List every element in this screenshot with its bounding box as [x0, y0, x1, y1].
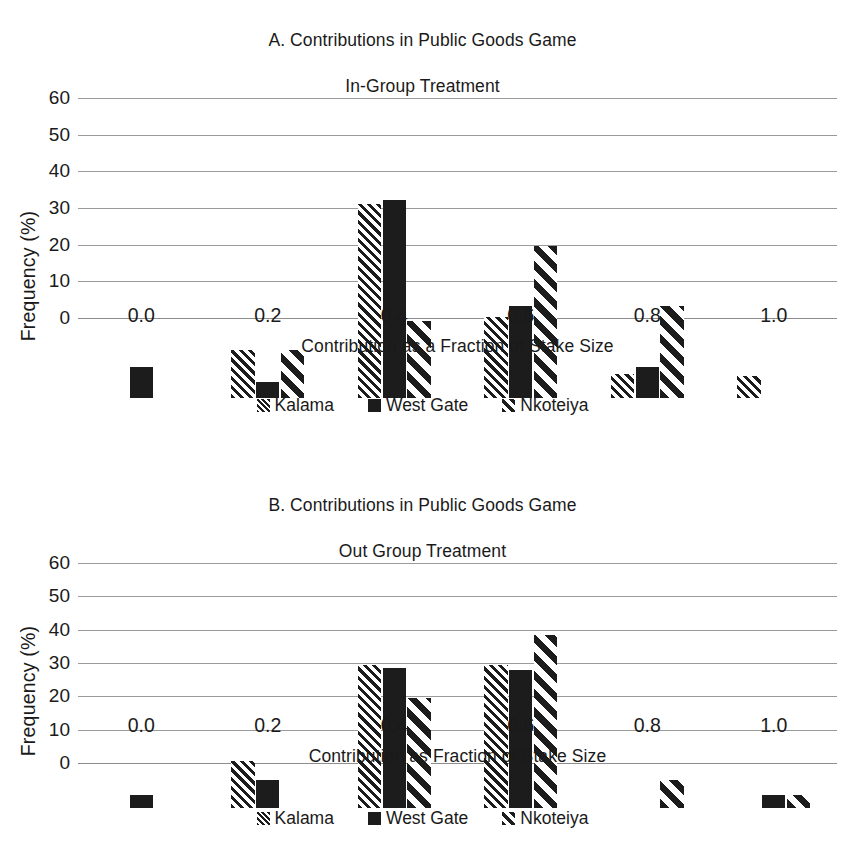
bar-kalama-0.2 — [231, 350, 254, 398]
x-tick-label: 0.6 — [507, 714, 534, 737]
chart-a-y-axis-ticks: 6050403020100 — [22, 98, 70, 398]
y-tick-label: 50 — [22, 585, 70, 607]
chart-b-y-axis-ticks: 6050403020100 — [22, 563, 70, 808]
solid-square-swatch-icon — [368, 399, 381, 412]
bar-nkoteiya-0.2 — [281, 350, 304, 398]
chart-a-x-axis-label: Contribution as a Fraction of Stake Size — [78, 336, 837, 357]
hatch-fine-swatch-icon — [257, 812, 270, 825]
y-tick-label: 20 — [22, 234, 70, 256]
y-tick-label: 30 — [22, 197, 70, 219]
bar-west-gate-0.0 — [130, 795, 153, 808]
bar-kalama-0.2 — [231, 761, 254, 808]
chart-b-title-line1: B. Contributions in Public Goods Game — [268, 495, 576, 515]
bar-west-gate-0.8 — [636, 367, 659, 398]
legend-label: Nkoteiya — [520, 395, 588, 416]
x-tick-label: 0.6 — [507, 304, 534, 327]
figure-two-panel-bar-charts: A. Contributions in Public Goods Game In… — [0, 0, 845, 853]
chart-panel-a: A. Contributions in Public Goods Game In… — [0, 0, 845, 430]
legend-item-kalama[interactable]: Kalama — [257, 808, 334, 829]
x-tick-label: 0.4 — [381, 714, 408, 737]
x-tick-label: 1.0 — [760, 714, 787, 737]
hatch-wide-swatch-icon — [502, 812, 515, 825]
hatch-wide-swatch-icon — [502, 399, 515, 412]
legend-label: Kalama — [275, 808, 334, 829]
y-tick-label: 60 — [22, 87, 70, 109]
chart-a-legend: KalamaWest GateNkoteiya — [0, 395, 845, 416]
y-tick-label: 40 — [22, 619, 70, 641]
legend-label: West Gate — [386, 395, 468, 416]
bar-kalama-0.4 — [358, 204, 381, 398]
y-tick-label: 0 — [22, 752, 70, 774]
legend-item-nkoteiya[interactable]: Nkoteiya — [502, 808, 588, 829]
chart-b-bars — [78, 563, 837, 808]
legend-label: West Gate — [386, 808, 468, 829]
chart-b-title-line2: Out Group Treatment — [339, 541, 506, 561]
y-tick-label: 50 — [22, 124, 70, 146]
bar-west-gate-0.2 — [256, 780, 279, 808]
chart-b-x-axis-label: Contribution as Fraction of Stake Size — [78, 746, 837, 767]
legend-item-west-gate[interactable]: West Gate — [368, 395, 468, 416]
x-tick-label: 0.8 — [634, 304, 661, 327]
bar-nkoteiya-0.4 — [407, 321, 430, 398]
legend-item-kalama[interactable]: Kalama — [257, 395, 334, 416]
bar-west-gate-0.4 — [383, 200, 406, 398]
solid-square-swatch-icon — [368, 812, 381, 825]
y-tick-label: 10 — [22, 719, 70, 741]
bar-nkoteiya-0.8 — [660, 780, 683, 808]
x-tick-label: 0.0 — [128, 714, 155, 737]
bar-west-gate-1.0 — [762, 795, 785, 808]
x-tick-label: 0.2 — [254, 304, 281, 327]
hatch-fine-swatch-icon — [257, 399, 270, 412]
chart-b-legend: KalamaWest GateNkoteiya — [0, 808, 845, 829]
legend-label: Kalama — [275, 395, 334, 416]
bar-west-gate-0.0 — [130, 367, 153, 398]
y-tick-label: 40 — [22, 160, 70, 182]
y-tick-label: 20 — [22, 685, 70, 707]
chart-b-plot-wrapper: Frequency (%) 6050403020100 — [0, 563, 845, 808]
legend-label: Nkoteiya — [520, 808, 588, 829]
y-tick-label: 30 — [22, 652, 70, 674]
chart-b-plot-area — [78, 563, 837, 808]
chart-a-x-axis-ticks: 0.00.20.40.60.81.0 — [78, 304, 837, 332]
chart-panel-b: B. Contributions in Public Goods Game Ou… — [0, 465, 845, 853]
y-tick-label: 60 — [22, 552, 70, 574]
x-tick-label: 1.0 — [760, 304, 787, 327]
x-tick-label: 0.4 — [381, 304, 408, 327]
chart-b-x-axis-ticks: 0.00.20.40.60.81.0 — [78, 714, 837, 742]
y-tick-label: 0 — [22, 307, 70, 329]
chart-b-title: B. Contributions in Public Goods Game Ou… — [0, 465, 845, 563]
x-tick-label: 0.8 — [634, 714, 661, 737]
chart-a-title-line2: In-Group Treatment — [345, 76, 500, 96]
legend-item-nkoteiya[interactable]: Nkoteiya — [502, 395, 588, 416]
chart-a-title: A. Contributions in Public Goods Game In… — [0, 0, 845, 98]
chart-a-title-line1: A. Contributions in Public Goods Game — [268, 30, 576, 50]
x-tick-label: 0.2 — [254, 714, 281, 737]
y-tick-label: 10 — [22, 270, 70, 292]
legend-item-west-gate[interactable]: West Gate — [368, 808, 468, 829]
x-tick-label: 0.0 — [128, 304, 155, 327]
bar-nkoteiya-1.0 — [787, 795, 810, 808]
